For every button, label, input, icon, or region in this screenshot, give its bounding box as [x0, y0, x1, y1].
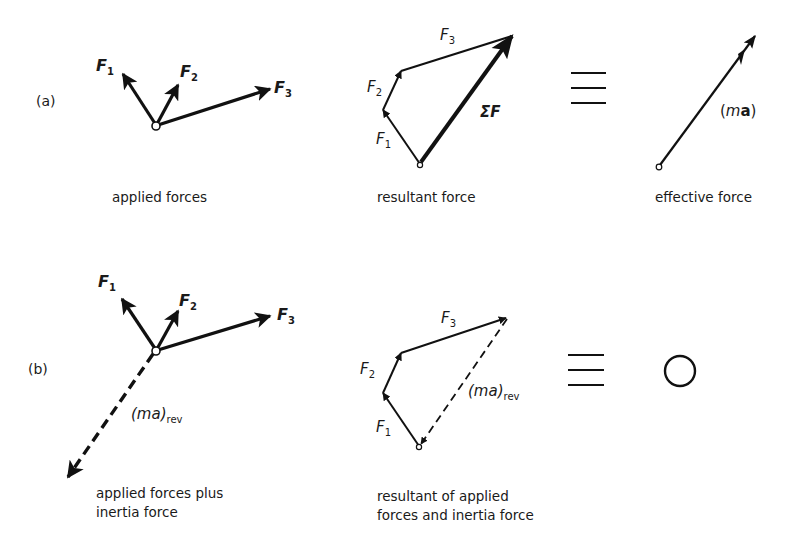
b-poly-f3-label: F3	[441, 310, 456, 332]
a-ma-label: (ma)	[720, 103, 756, 120]
b-f2-label: F2	[179, 292, 197, 315]
a-ma-second-arrowhead	[738, 49, 745, 65]
a-resultant-polygon	[383, 36, 512, 168]
caption-b-resultant-line2: forces and inertia force	[377, 506, 534, 525]
caption-b-resultant: resultant of applied forces and inertia …	[377, 487, 534, 525]
b-poly-f2-label: F2	[360, 361, 375, 383]
b-f3-label: F3	[277, 306, 295, 329]
b-equivalence-icon	[568, 355, 604, 385]
a-poly-f3-label: F3	[440, 27, 455, 49]
a-sum-label: ΣF	[480, 104, 501, 121]
a-f1-arrow	[123, 74, 156, 125]
a-f1-label: F1	[96, 57, 114, 80]
b-poly-origin	[416, 444, 421, 449]
caption-a-effective: effective force	[655, 188, 752, 207]
row-b-label: (b)	[28, 361, 48, 378]
b-inertia-label: (ma)rev	[131, 406, 182, 428]
a-poly-f2-label: F2	[367, 79, 382, 101]
b-poly-inertia-label: (ma)rev	[468, 383, 519, 405]
a-f3-arrow	[158, 89, 270, 125]
caption-b-applied: applied forces plus inertia force	[96, 484, 223, 522]
a-poly-f1-label: F1	[376, 131, 391, 153]
b-poly-f2	[383, 353, 401, 393]
a-poly-f3	[401, 36, 512, 71]
a-effective-origin	[656, 164, 662, 170]
force-diagram-canvas	[0, 0, 797, 541]
b-applied-forces	[68, 299, 270, 477]
a-particle-point	[152, 122, 160, 130]
caption-a-resultant: resultant force	[377, 188, 476, 207]
b-f1-arrow	[122, 299, 156, 350]
a-f3-label: F3	[274, 79, 292, 102]
b-particle-point	[152, 347, 160, 355]
caption-b-resultant-line1: resultant of applied	[377, 487, 534, 506]
caption-b-applied-line2: inertia force	[96, 503, 223, 522]
a-sum-arrow	[421, 36, 512, 162]
a-poly-origin	[417, 162, 422, 167]
row-a-label: (a)	[36, 93, 56, 110]
caption-b-applied-line1: applied forces plus	[96, 484, 223, 503]
b-zero-circle-icon	[665, 356, 695, 386]
a-f2-label: F2	[180, 63, 198, 86]
a-poly-f2	[383, 71, 401, 110]
b-f1-label: F1	[98, 273, 116, 296]
caption-a-applied: applied forces	[112, 188, 207, 207]
b-f3-arrow	[158, 316, 270, 350]
a-equivalence-icon	[571, 73, 606, 103]
b-poly-f1-label: F1	[376, 419, 391, 441]
